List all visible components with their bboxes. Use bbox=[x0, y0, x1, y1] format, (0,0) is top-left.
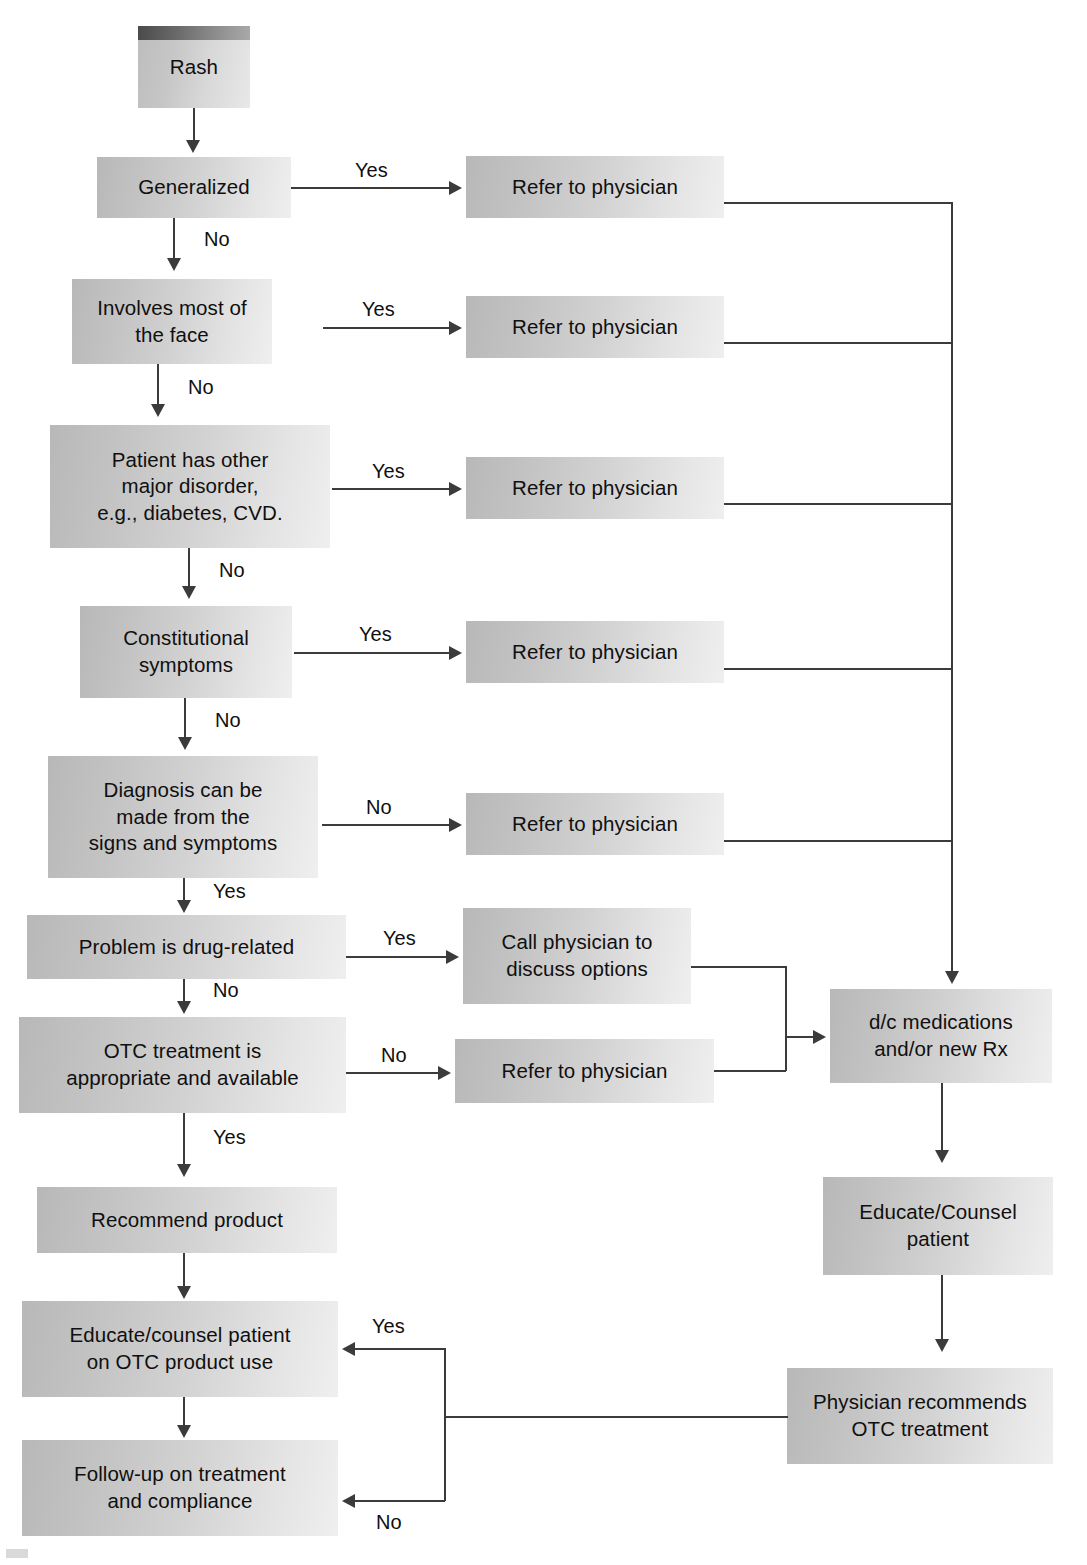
edge-label-generalized-no: No bbox=[204, 229, 230, 249]
edge-label-face-no: No bbox=[188, 377, 214, 397]
arrowhead-right bbox=[449, 181, 462, 195]
connector-refer4-to-rail bbox=[724, 668, 952, 670]
connector-major-yes bbox=[332, 488, 451, 490]
edge-label-diagnosis-no: No bbox=[366, 797, 392, 817]
node-label: Recommend product bbox=[91, 1207, 283, 1234]
node-label: Diagnosis can be made from the signs and… bbox=[89, 777, 278, 857]
arrowhead-right bbox=[813, 1030, 826, 1044]
arrowhead-down bbox=[177, 900, 191, 913]
node-label: Involves most of the face bbox=[97, 295, 247, 348]
arrowhead-right bbox=[449, 482, 462, 496]
edge-label-physician-otc-no: No bbox=[376, 1512, 402, 1532]
connector-otc-no bbox=[346, 1072, 440, 1074]
connector-call-physician-out bbox=[691, 966, 786, 968]
node-educate-counsel-patient[interactable]: Educate/Counsel patient bbox=[823, 1177, 1053, 1275]
node-refer-to-physician-4[interactable]: Refer to physician bbox=[466, 621, 724, 683]
connector-physician-otc-yes bbox=[355, 1348, 445, 1350]
edge-label-constitutional-yes: Yes bbox=[359, 624, 392, 644]
arrowhead-down bbox=[177, 1286, 191, 1299]
node-label: Refer to physician bbox=[512, 475, 678, 502]
node-label: Patient has other major disorder, e.g., … bbox=[97, 447, 282, 527]
node-generalized[interactable]: Generalized bbox=[97, 157, 291, 218]
edge-label-otc-yes: Yes bbox=[213, 1127, 246, 1147]
node-label: d/c medications and/or new Rx bbox=[869, 1009, 1013, 1062]
arrowhead-right bbox=[449, 321, 462, 335]
arrowhead-down bbox=[178, 737, 192, 750]
node-label: Generalized bbox=[138, 174, 250, 201]
node-call-physician-to-discuss-options[interactable]: Call physician to discuss options bbox=[463, 908, 691, 1004]
connector-rash-to-generalized bbox=[193, 108, 195, 144]
connector-physician-otc-split bbox=[444, 1348, 446, 1501]
arrowhead-down bbox=[186, 140, 200, 153]
node-physician-recommends-otc-treatment[interactable]: Physician recommends OTC treatment bbox=[787, 1368, 1053, 1464]
arrowhead-down bbox=[935, 1150, 949, 1163]
node-label: Educate/counsel patient on OTC product u… bbox=[69, 1322, 290, 1375]
connector-refer5-to-rail bbox=[724, 840, 952, 842]
connector-dcmeds-to-educate bbox=[941, 1083, 943, 1154]
connector-physician-otc-no bbox=[355, 1500, 445, 1502]
node-label: Refer to physician bbox=[502, 1058, 668, 1085]
node-label: Educate/Counsel patient bbox=[859, 1199, 1017, 1252]
node-refer-to-physician-6[interactable]: Refer to physician bbox=[455, 1039, 714, 1103]
edge-label-major-no: No bbox=[219, 560, 245, 580]
edge-label-constitutional-no: No bbox=[215, 710, 241, 730]
connector-refer3-to-rail bbox=[724, 503, 952, 505]
connector-merge-into-dc-meds bbox=[785, 1036, 815, 1038]
node-involves-most-of-face[interactable]: Involves most of the face bbox=[72, 279, 272, 364]
node-otc-treatment-appropriate[interactable]: OTC treatment is appropriate and availab… bbox=[19, 1017, 346, 1113]
scan-band bbox=[138, 26, 250, 40]
node-label: Constitutional symptoms bbox=[123, 625, 249, 678]
arrowhead-down bbox=[151, 404, 165, 417]
connector-refer2-to-rail bbox=[724, 342, 952, 344]
connector-face-yes bbox=[323, 327, 451, 329]
node-label: Refer to physician bbox=[512, 639, 678, 666]
connector-drug-yes bbox=[346, 956, 448, 958]
node-follow-up-on-treatment[interactable]: Follow-up on treatment and compliance bbox=[22, 1440, 338, 1536]
node-refer-to-physician-2[interactable]: Refer to physician bbox=[466, 296, 724, 358]
node-label: Physician recommends OTC treatment bbox=[813, 1389, 1027, 1442]
arrowhead-right bbox=[438, 1066, 451, 1080]
arrowhead-down bbox=[935, 1339, 949, 1352]
edge-label-generalized-yes: Yes bbox=[355, 160, 388, 180]
arrowhead-down bbox=[945, 971, 959, 984]
edge-label-otc-no: No bbox=[381, 1045, 407, 1065]
node-dc-medications[interactable]: d/c medications and/or new Rx bbox=[830, 989, 1052, 1083]
node-label: OTC treatment is appropriate and availab… bbox=[66, 1038, 299, 1091]
scan-artifact bbox=[6, 1549, 28, 1558]
node-refer-to-physician-5[interactable]: Refer to physician bbox=[466, 793, 724, 855]
edge-label-drug-yes: Yes bbox=[383, 928, 416, 948]
node-educate-counsel-on-otc-product-use[interactable]: Educate/counsel patient on OTC product u… bbox=[22, 1301, 338, 1397]
connector-refer1-to-rail bbox=[724, 202, 952, 204]
connector-otc-yes bbox=[183, 1113, 185, 1169]
node-diagnosis-can-be-made[interactable]: Diagnosis can be made from the signs and… bbox=[48, 756, 318, 878]
node-rash[interactable]: Rash bbox=[138, 26, 250, 108]
node-refer-to-physician-1[interactable]: Refer to physician bbox=[466, 156, 724, 218]
edge-label-physician-otc-yes: Yes bbox=[372, 1316, 405, 1336]
node-constitutional-symptoms[interactable]: Constitutional symptoms bbox=[80, 606, 292, 698]
connector-physician-otc-out bbox=[444, 1416, 788, 1418]
edge-label-major-yes: Yes bbox=[372, 461, 405, 481]
node-label: Refer to physician bbox=[512, 314, 678, 341]
node-label: Refer to physician bbox=[512, 811, 678, 838]
connector-diagnosis-no bbox=[322, 824, 451, 826]
edge-label-diagnosis-yes: Yes bbox=[213, 881, 246, 901]
node-refer-to-physician-3[interactable]: Refer to physician bbox=[466, 457, 724, 519]
node-label: Rash bbox=[170, 54, 218, 81]
connector-merge-to-dc-meds bbox=[785, 966, 787, 1071]
node-recommend-product[interactable]: Recommend product bbox=[37, 1187, 337, 1253]
connector-refer-merge-rail bbox=[951, 202, 953, 975]
arrowhead-down bbox=[177, 1425, 191, 1438]
connector-generalized-yes bbox=[291, 187, 451, 189]
arrowhead-down bbox=[177, 1164, 191, 1177]
node-patient-has-other-major-disorder[interactable]: Patient has other major disorder, e.g., … bbox=[50, 425, 330, 548]
node-label: Follow-up on treatment and compliance bbox=[74, 1461, 286, 1514]
node-problem-is-drug-related[interactable]: Problem is drug-related bbox=[27, 915, 346, 979]
edge-label-face-yes: Yes bbox=[362, 299, 395, 319]
connector-constitutional-yes bbox=[294, 652, 451, 654]
arrowhead-right bbox=[449, 646, 462, 660]
connector-generalized-no bbox=[173, 218, 175, 263]
connector-refer6-out bbox=[714, 1070, 786, 1072]
connector-educate-to-physician-otc bbox=[941, 1275, 943, 1343]
node-label: Problem is drug-related bbox=[79, 934, 294, 961]
arrowhead-down bbox=[182, 586, 196, 599]
